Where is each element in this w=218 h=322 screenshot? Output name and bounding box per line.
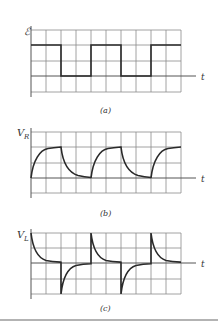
panel-c: V L t (c) — [17, 229, 205, 313]
panel-a-x-label: t — [201, 72, 205, 82]
panel-a-caption: (a) — [100, 106, 111, 115]
panel-b-y-label-sub: R — [23, 133, 30, 141]
panel-a: ℰ t (a) — [24, 26, 205, 115]
panel-b-grid — [31, 132, 181, 193]
panel-b-x-label: t — [201, 174, 205, 184]
panel-b-caption: (b) — [100, 209, 111, 218]
panel-c-y-label-sub: L — [23, 235, 29, 243]
panel-c-caption: (c) — [100, 304, 111, 313]
panel-b: V R t (b) — [17, 127, 205, 218]
panel-c-x-label: t — [201, 259, 205, 269]
rl-circuit-figure: ℰ t (a) V R t (b) — [0, 0, 218, 322]
panel-a-grid — [31, 30, 181, 92]
panel-a-y-label: ℰ — [24, 26, 31, 37]
